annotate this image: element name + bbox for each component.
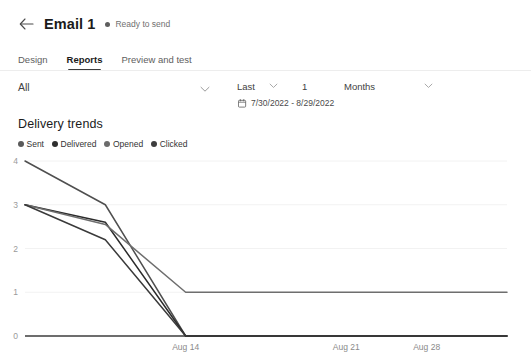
status-dot-icon bbox=[105, 22, 110, 27]
delivery-trends-chart: Delivery trends Sent Delivered Opened Cl… bbox=[0, 117, 531, 360]
chevron-down-icon[interactable] bbox=[199, 83, 211, 95]
y-axis-tick-label: 2 bbox=[13, 244, 18, 254]
tab-preview-and-test[interactable]: Preview and test bbox=[121, 54, 191, 71]
chart-plot-area: 01234Aug 14Aug 21Aug 28 bbox=[0, 155, 513, 360]
chevron-down-icon[interactable] bbox=[422, 80, 434, 92]
date-range-display[interactable]: 7/30/2022 - 8/29/2022 bbox=[238, 98, 334, 108]
y-axis-tick-label: 4 bbox=[13, 156, 18, 166]
chevron-down-icon[interactable] bbox=[268, 80, 280, 92]
y-axis-tick-label: 0 bbox=[13, 331, 18, 341]
x-axis-tick-label: Aug 21 bbox=[333, 342, 360, 352]
audience-filter-dropdown[interactable]: All bbox=[18, 81, 218, 93]
tab-design[interactable]: Design bbox=[18, 54, 48, 71]
legend-item-delivered[interactable]: Delivered bbox=[52, 139, 96, 149]
legend-label-opened: Opened bbox=[113, 139, 143, 149]
y-axis-tick-label: 1 bbox=[13, 287, 18, 297]
legend-label-delivered: Delivered bbox=[61, 139, 97, 149]
legend-dot-clicked bbox=[151, 141, 157, 147]
range-units-dropdown[interactable]: Months bbox=[344, 81, 375, 92]
legend-label-sent: Sent bbox=[27, 139, 45, 149]
legend-dot-opened bbox=[104, 141, 110, 147]
range-mode-dropdown[interactable]: Last bbox=[237, 81, 255, 92]
legend-dot-sent bbox=[18, 141, 24, 147]
page-header: Email 1 Ready to send bbox=[0, 0, 531, 36]
chart-line-delivered bbox=[25, 205, 507, 336]
y-axis-tick-label: 3 bbox=[13, 200, 18, 210]
filter-bar: All Last 1 Months 7/30/2022 - 8/2 bbox=[0, 71, 531, 115]
legend-label-clicked: Clicked bbox=[160, 139, 188, 149]
calendar-icon bbox=[238, 99, 247, 108]
x-axis-tick-label: Aug 14 bbox=[172, 342, 199, 352]
date-range-label: 7/30/2022 - 8/29/2022 bbox=[251, 98, 334, 108]
status-badge: Ready to send bbox=[105, 19, 170, 29]
status-label: Ready to send bbox=[115, 19, 170, 29]
x-axis-tick-label: Aug 28 bbox=[413, 342, 440, 352]
tab-bar: Design Reports Preview and test bbox=[0, 49, 531, 71]
date-range-controls: Last 1 Months bbox=[237, 80, 434, 92]
chart-line-clicked bbox=[25, 205, 507, 336]
page-title: Email 1 bbox=[44, 16, 95, 32]
legend-item-opened[interactable]: Opened bbox=[104, 139, 143, 149]
tab-reports[interactable]: Reports bbox=[67, 54, 103, 71]
chart-title: Delivery trends bbox=[18, 117, 531, 131]
chart-legend: Sent Delivered Opened Clicked bbox=[18, 139, 531, 149]
arrow-left-icon[interactable] bbox=[18, 16, 34, 32]
legend-item-clicked[interactable]: Clicked bbox=[151, 139, 187, 149]
legend-dot-delivered bbox=[52, 141, 58, 147]
legend-item-sent[interactable]: Sent bbox=[18, 139, 44, 149]
chart-svg: 01234Aug 14Aug 21Aug 28 bbox=[0, 155, 513, 360]
range-amount-input[interactable]: 1 bbox=[302, 81, 328, 92]
